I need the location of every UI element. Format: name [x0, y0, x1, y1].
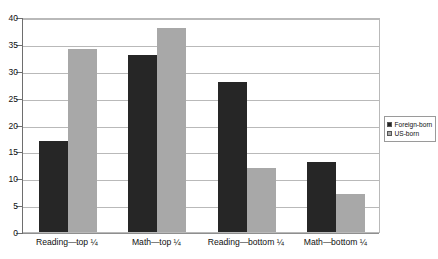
- legend-swatch-icon: [387, 131, 392, 136]
- y-axis-label: 20: [0, 122, 18, 131]
- x-axis-label: Math—top ¼: [112, 238, 202, 247]
- gridline: [23, 233, 379, 234]
- bar-us-born: [157, 28, 186, 232]
- y-axis-label: 40: [0, 14, 18, 23]
- legend-label: Foreign-born: [395, 121, 433, 128]
- y-axis-label: 25: [0, 95, 18, 104]
- y-axis-label: 15: [0, 148, 18, 157]
- bar-us-born: [247, 168, 276, 233]
- y-axis-label: 30: [0, 68, 18, 77]
- gridline: [23, 19, 379, 20]
- y-axis-label: 10: [0, 175, 18, 184]
- x-axis-label: Math—bottom ¼: [291, 238, 381, 247]
- bar-foreign-born: [307, 162, 336, 232]
- x-axis-label: Reading—bottom ¼: [201, 238, 291, 247]
- bar-foreign-born: [218, 82, 247, 233]
- legend: Foreign-born US-born: [384, 116, 436, 142]
- x-axis-label: Reading—top ¼: [22, 238, 112, 247]
- legend-label: US-born: [395, 130, 420, 137]
- legend-item-foreign-born: Foreign-born: [387, 120, 432, 129]
- bar-foreign-born: [128, 55, 157, 232]
- y-axis-label: 35: [0, 41, 18, 50]
- y-axis-label: 0: [0, 229, 18, 238]
- y-axis-label: 5: [0, 202, 18, 211]
- legend-swatch-icon: [387, 122, 392, 127]
- bar-us-born: [336, 194, 365, 232]
- bar-us-born: [68, 49, 97, 232]
- bar-foreign-born: [39, 141, 68, 232]
- gridline: [23, 46, 379, 47]
- plot-area: [22, 18, 380, 233]
- legend-item-us-born: US-born: [387, 129, 432, 138]
- bar-chart: 0510152025303540 Reading—top ¼Math—top ¼…: [0, 0, 438, 259]
